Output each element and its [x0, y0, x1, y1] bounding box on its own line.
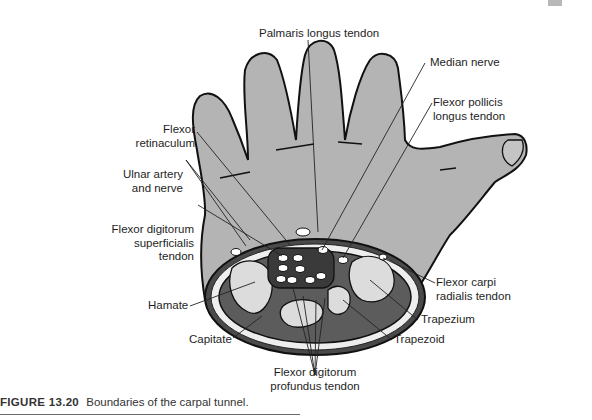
label-capitate: Capitate — [189, 333, 232, 347]
label-hamate: Hamate — [148, 299, 188, 313]
label-flexor-retinaculum: Flexor retinaculum — [120, 123, 195, 150]
trapezoid-bone — [328, 286, 350, 314]
label-flexor-digitorum-superficialis: Flexor digitorum superficialis tendon — [90, 223, 194, 264]
hand-cross-section-illustration — [0, 0, 592, 420]
label-ulnar-artery-and-nerve: Ulnar artery and nerve — [108, 168, 183, 195]
caption-rule — [0, 414, 300, 415]
figure-caption-text: Boundaries of the carpal tunnel. — [86, 396, 248, 408]
label-trapezium: Trapezium — [421, 313, 475, 327]
label-flexor-carpi-radialis: Flexor carpi radialis tendon — [436, 276, 511, 303]
label-palmaris-longus-tendon: Palmaris longus tendon — [259, 27, 379, 41]
label-trapezoid: Trapezoid — [394, 333, 445, 347]
figure-caption: FIGURE 13.20 Boundaries of the carpal tu… — [0, 396, 249, 408]
label-flexor-digitorum-profundus: Flexor digitorum profundus tendon — [270, 366, 360, 393]
label-median-nerve: Median nerve — [430, 56, 500, 70]
carpal-tunnel-figure: Palmaris longus tendon Median nerve Flex… — [0, 0, 592, 420]
label-flexor-pollicis-longus: Flexor pollicis longus tendon — [433, 96, 505, 123]
figure-number: FIGURE 13.20 — [0, 396, 79, 408]
